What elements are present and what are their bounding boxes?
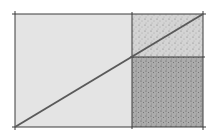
left-rectangle <box>15 14 132 127</box>
bottom-right-square <box>132 57 203 127</box>
golden-rectangle-diagram <box>0 0 217 135</box>
